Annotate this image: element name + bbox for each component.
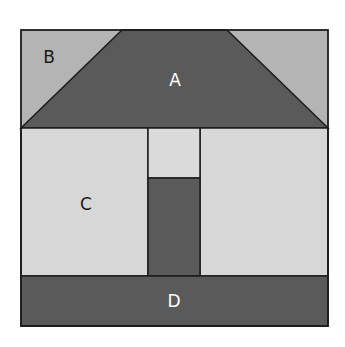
house-block-diagram: B A C D bbox=[0, 0, 345, 347]
region-door bbox=[148, 178, 200, 276]
region-c-wall-right bbox=[200, 128, 328, 276]
label-d: D bbox=[167, 291, 180, 311]
label-a: A bbox=[169, 70, 181, 90]
region-window bbox=[148, 128, 200, 178]
label-b: B bbox=[43, 47, 55, 67]
label-c: C bbox=[80, 194, 92, 214]
